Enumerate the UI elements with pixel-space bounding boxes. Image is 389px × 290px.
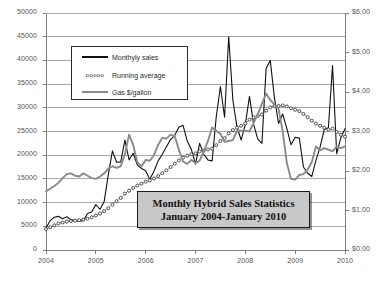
y-axis-right-tick: $0,00 [352,245,370,252]
legend-item-gas-price: Gas $/gallon [72,83,187,101]
y-axis-left-tick: 25000 [0,127,37,134]
chart-title-box: Monthly Hybrid Sales Statistics January … [137,191,310,228]
x-axis-tick: 2009 [275,257,315,264]
x-axis-tick: 2006 [126,257,166,264]
legend-item-running-average: ooooo Running average [72,66,187,84]
legend-key-gray-line-icon [78,91,112,93]
y-axis-left-tick: 20000 [0,150,37,157]
y-axis-right-tick: $2,00 [352,166,370,173]
y-axis-right-tick: $6,00 [352,8,370,15]
y-axis-right-tick: $3,00 [352,127,370,134]
chart-subtitle: January 2004-January 2010 [161,210,286,223]
x-axis-tick: 2007 [176,257,216,264]
y-axis-left-tick: 0 [0,245,37,252]
y-axis-left-tick: 30000 [0,103,37,110]
y-axis-right-tick: $4,00 [352,87,370,94]
x-axis-tick: 2004 [26,257,66,264]
hybrid-sales-chart: Monthyly sales ooooo Running average Gas… [0,0,389,290]
legend-key-circles-icon: ooooo [78,72,112,78]
legend-label-running-average: Running average [112,72,165,79]
y-axis-left-tick: 40000 [0,55,37,62]
x-axis-tick: 2010 [325,257,365,264]
y-axis-right-tick: $1,00 [352,206,370,213]
legend-label-monthly-sales: Monthyly sales [112,54,158,61]
legend-label-gas-price: Gas $/gallon [112,89,151,96]
legend-key-solid-line-icon [78,56,112,58]
y-axis-left-tick: 5000 [0,221,37,228]
legend-item-monthly-sales: Monthyly sales [72,48,187,66]
plot-canvas [0,0,389,290]
x-axis-tick: 2005 [76,257,116,264]
y-axis-right-tick: $5,00 [352,48,370,55]
chart-title: Monthly Hybrid Sales Statistics [152,197,294,210]
y-axis-left-tick: 45000 [0,32,37,39]
chart-legend: Monthyly sales ooooo Running average Gas… [71,46,188,100]
y-axis-left-tick: 10000 [0,198,37,205]
y-axis-left-tick: 35000 [0,79,37,86]
y-axis-left-tick: 50000 [0,8,37,15]
x-axis-tick: 2008 [225,257,265,264]
y-axis-left-tick: 15000 [0,174,37,181]
